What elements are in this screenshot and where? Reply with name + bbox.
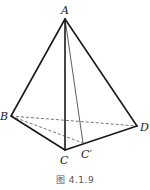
vertex-label-D: D — [139, 121, 149, 134]
vertex-label-B: B — [0, 110, 8, 123]
edge-AD — [65, 19, 137, 126]
vertex-label-A: A — [60, 4, 69, 17]
edge-CD — [65, 126, 137, 150]
tetrahedron-diagram: A B C C′ D — [0, 0, 150, 190]
figure-caption: 图 4.1.9 — [0, 173, 150, 186]
edge-BD — [11, 116, 137, 126]
edge-AB — [11, 19, 65, 116]
edge-ACprime — [65, 19, 83, 143]
edge-BC — [11, 116, 65, 150]
vertex-label-C: C — [60, 154, 69, 167]
vertex-label-C-prime: C′ — [81, 148, 92, 161]
